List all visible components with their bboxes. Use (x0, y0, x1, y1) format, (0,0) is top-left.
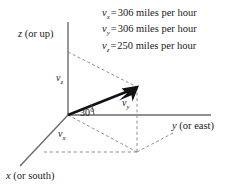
vx-component-label: vx (58, 129, 66, 142)
legend-row-vx: vx=306 miles per hour (102, 7, 197, 23)
legend-row-vy: vy=306 miles per hour (102, 23, 197, 39)
velocity-vector-diagram: vx=306 miles per hour vy=306 miles per h… (0, 0, 243, 189)
z-axis-paren: (or up) (25, 28, 54, 39)
legend-value-vz: 250 (117, 40, 133, 51)
legend-value-vx: 306 (118, 7, 134, 18)
y-axis-paren: (or east) (179, 120, 214, 131)
legend-unit-vy: miles per hour (136, 23, 197, 34)
z-axis-variable: z (18, 28, 22, 39)
legend-unit-vz: miles per hour (136, 40, 197, 51)
legend-row-vz: vz=250 miles per hour (102, 40, 197, 56)
angle-label: 30° (80, 108, 94, 119)
legend-equals-vx: = (110, 7, 118, 18)
vz-projection-line (68, 52, 137, 87)
y-axis-label: y (or east) (172, 120, 214, 131)
legend-value-vy: 306 (118, 23, 134, 34)
x-axis-paren: (or south) (13, 170, 54, 181)
legend-symbol-vx: vx (102, 7, 110, 18)
legend-symbol-vy: vy (102, 23, 110, 34)
ground-diagonal-line (68, 115, 137, 152)
component-values-legend: vx=306 miles per hour vy=306 miles per h… (102, 7, 197, 56)
x-axis-label: x (or south) (6, 170, 54, 181)
z-axis-label: z (or up) (18, 28, 54, 39)
legend-unit-vx: miles per hour (136, 7, 197, 18)
vz-component-label: vz (56, 73, 63, 86)
x-axis-variable: x (6, 170, 11, 181)
ground-to-y-axis-line (137, 133, 173, 152)
legend-equals-vy: = (110, 23, 118, 34)
y-axis-variable: y (172, 120, 177, 131)
vy-component-label: vy (122, 98, 130, 111)
